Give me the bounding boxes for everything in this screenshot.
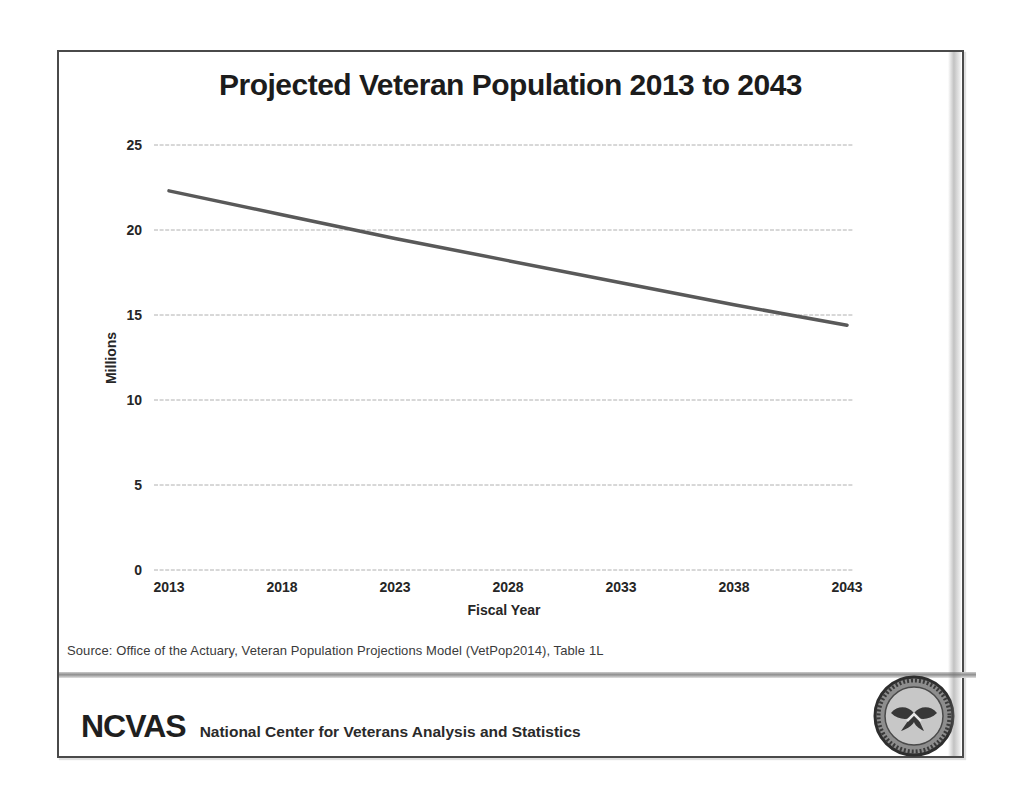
x-tick-label: 2028 xyxy=(492,579,523,595)
scan-shadow xyxy=(948,52,961,756)
y-tick-label: 0 xyxy=(134,562,142,578)
y-tick-label: 10 xyxy=(126,392,142,408)
x-tick-label: 2023 xyxy=(379,579,410,595)
x-tick-label: 2038 xyxy=(718,579,749,595)
source-note: Source: Office of the Actuary, Veteran P… xyxy=(67,643,604,658)
y-tick-label: 25 xyxy=(126,137,142,153)
x-tick-label: 2013 xyxy=(153,579,184,595)
ncvas-logo: NCVAS xyxy=(81,708,186,745)
x-tick-label: 2033 xyxy=(605,579,636,595)
y-tick-label: 15 xyxy=(126,307,142,323)
footer-divider xyxy=(59,672,976,678)
page: Projected Veteran Population 2013 to 204… xyxy=(0,0,1016,806)
x-tick-label: 2043 xyxy=(831,579,862,595)
y-axis-title: Millions xyxy=(103,332,119,384)
slide: Projected Veteran Population 2013 to 204… xyxy=(57,50,964,758)
line-chart: 05101520252013201820232028203320382043Fi… xyxy=(59,52,962,630)
population-line-series xyxy=(169,191,847,325)
y-tick-label: 5 xyxy=(134,477,142,493)
x-axis-title: Fiscal Year xyxy=(468,602,541,618)
x-tick-label: 2018 xyxy=(266,579,297,595)
footer-tagline: National Center for Veterans Analysis an… xyxy=(200,723,581,741)
y-tick-label: 20 xyxy=(126,222,142,238)
va-seal-icon xyxy=(871,672,957,758)
footer: NCVAS National Center for Veterans Analy… xyxy=(81,708,581,745)
